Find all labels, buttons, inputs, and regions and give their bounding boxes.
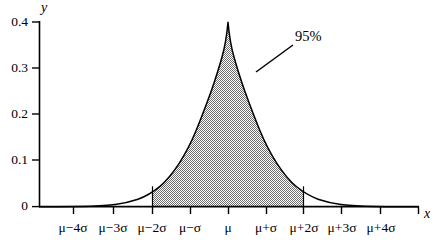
normal-distribution-chart: y x 0 0.1 0.2 0.3 0.4 μ−4σ μ−3σ μ−2σ μ−σ… [0,0,442,242]
y-tick-label-1: 0.1 [0,153,28,167]
x-tick-label-mu-minus-sigma: μ−σ [179,221,201,235]
x-tick-label-mu-plus-sigma: μ+σ [255,221,277,235]
y-tick-label-3: 0.3 [0,61,28,75]
x-axis-ticks [74,207,419,214]
x-tick-label-mu-plus-4sigma: μ+4σ [367,221,396,235]
y-tick-label-0: 0 [0,199,28,213]
annotation-leader-line [256,45,293,72]
shaded-area-95 [39,22,418,207]
y-tick-label-2: 0.2 [0,107,28,121]
x-tick-label-mu-plus-3sigma: μ+3σ [328,221,357,235]
chart-plot-area [0,0,442,242]
y-tick-label-4: 0.4 [0,15,28,29]
x-tick-label-mu: μ [224,221,231,235]
y-axis-label: y [41,1,47,15]
area-percentage-annotation: 95% [295,29,322,44]
x-tick-label-mu-plus-2sigma: μ+2σ [290,221,319,235]
x-tick-label-mu-minus-2sigma: μ−2σ [138,221,167,235]
y-axis-ticks [32,22,40,207]
x-tick-label-mu-minus-3sigma: μ−3σ [99,221,128,235]
x-axis-label: x [424,207,430,221]
x-tick-label-mu-minus-4sigma: μ−4σ [59,221,88,235]
